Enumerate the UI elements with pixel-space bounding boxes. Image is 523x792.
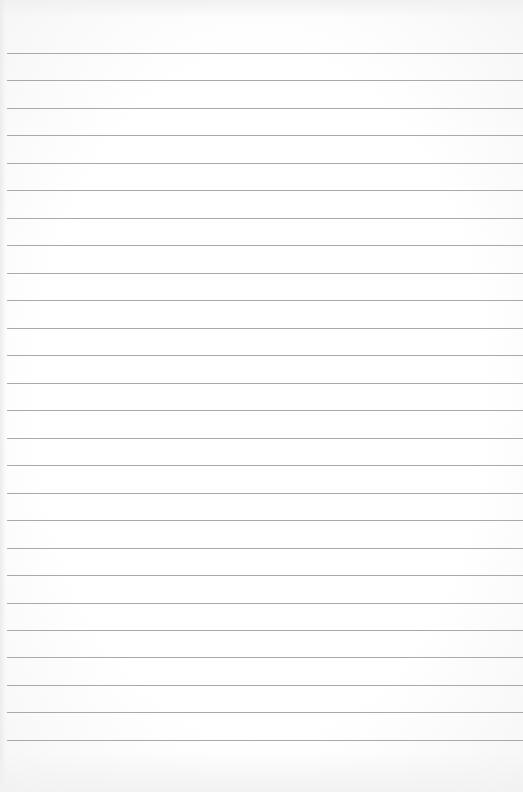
ruled-line [7,493,523,494]
ruled-line [7,685,523,686]
ruled-line [7,712,523,713]
ruled-line [7,355,523,356]
ruled-line [7,465,523,466]
paper-top-edge-shading [0,0,523,18]
ruled-line [7,53,523,54]
ruled-line [7,438,523,439]
ruled-line [7,218,523,219]
paper-left-edge-shading [0,0,6,792]
ruled-line [7,603,523,604]
ruled-line [7,383,523,384]
ruled-line [7,740,523,741]
paper-bottom-edge-shading [0,752,523,792]
ruled-line [7,520,523,521]
ruled-line [7,300,523,301]
ruled-line [7,80,523,81]
ruled-line [7,410,523,411]
ruled-line [7,548,523,549]
lined-paper-sheet [0,0,523,792]
ruled-line [7,575,523,576]
ruled-line [7,135,523,136]
ruled-line [7,163,523,164]
ruled-line [7,657,523,658]
ruled-line [7,630,523,631]
ruled-line [7,108,523,109]
ruled-line [7,273,523,274]
ruled-line [7,328,523,329]
ruled-line [7,190,523,191]
ruled-line [7,245,523,246]
